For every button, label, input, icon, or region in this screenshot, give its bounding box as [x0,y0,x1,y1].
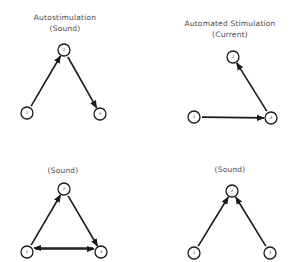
arrow-3-to-2 [236,197,266,246]
node-1: 1 [188,247,200,259]
node-3: 3 [264,247,276,259]
arrow-1-to-2 [31,195,60,245]
panel-bottom-left: (Sound)123 [21,166,107,258]
node-1: 1 [21,107,33,119]
stimulation-diagram: Autostimulation(Sound)123Automated Stimu… [0,0,290,262]
node-label: 1 [193,251,195,255]
arrow-2-to-3 [68,196,97,246]
node-2: 2 [58,183,70,195]
panel-title-line: Automated Stimulation [184,19,275,28]
node-2: 2 [226,185,238,197]
panel-title-line: (Sound) [50,24,81,33]
node-3: 3 [95,246,107,258]
node-1: 1 [21,246,33,258]
node-3: 3 [94,108,106,120]
panel-title-line: (Current) [212,30,248,39]
node-label: 1 [193,115,195,119]
panel-title-line: Autostimulation [34,13,96,22]
arrow-1-to-2 [198,197,228,246]
arrow-1-to-2 [31,56,60,106]
arrow-2-to-3 [68,57,97,108]
node-3: 3 [265,112,277,124]
panel-top-left: Autostimulation(Sound)123 [21,13,106,120]
panel-top-right: Automated Stimulation(Current)123 [184,19,277,124]
node-label: 3 [99,112,101,116]
node-label: 1 [26,250,28,254]
panel-title-line: (Sound) [215,165,246,174]
node-label: 3 [269,251,271,255]
arrow-3-to-2 [237,63,267,111]
arrow-1-to-3 [202,117,264,118]
node-label: 3 [100,250,102,254]
node-label: 1 [26,111,28,115]
node-2: 2 [227,51,239,63]
node-label: 3 [270,116,272,120]
panel-bottom-right: (Sound)123 [188,165,276,259]
node-2: 2 [58,44,70,56]
node-1: 1 [188,111,200,123]
panel-title-line: (Sound) [48,166,79,175]
